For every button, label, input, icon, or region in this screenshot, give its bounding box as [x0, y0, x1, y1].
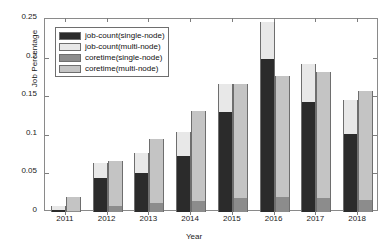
x-axis-tick-label: 2011 [45, 214, 85, 223]
bar-segment-coretime-single-node [150, 203, 163, 211]
x-axis-tick-label: 2016 [254, 214, 294, 223]
bar-job-count [260, 22, 275, 212]
x-axis-tick-mark-top [190, 18, 191, 22]
bar-segment-job-count-single-node [177, 156, 190, 212]
x-axis-tick-mark-top [274, 18, 275, 22]
bar-job-count [176, 132, 191, 212]
chart-figure: Job Percentage 00.050.10.150.20.25 20112… [0, 0, 388, 249]
x-axis-tick-mark-top [107, 18, 108, 22]
y-axis-tick-label: 0.1 [26, 128, 37, 137]
legend-entry: coretime(multi-node) [59, 63, 165, 74]
y-axis-tick-mark [45, 58, 49, 59]
y-axis-tick: 0.15 [0, 95, 44, 96]
bar-segment-job-count-multi-node [344, 100, 357, 134]
bar-segment-coretime-single-node [109, 206, 122, 212]
bar-coretime [275, 76, 290, 212]
x-axis-tick-mark-top [148, 18, 149, 22]
x-axis-tick-label: 2012 [87, 214, 127, 223]
legend-swatch [59, 32, 81, 40]
y-axis-tick-label: 0.25 [21, 12, 37, 21]
bar-segment-coretime-multi-node [109, 161, 122, 206]
bar-segment-job-count-multi-node [177, 132, 190, 157]
bar-segment-job-count-single-node [94, 178, 107, 212]
bar-segment-coretime-multi-node [67, 197, 80, 211]
legend-swatch [59, 43, 81, 51]
y-axis-tick: 0 [0, 211, 44, 212]
bar-segment-coretime-single-node [234, 198, 247, 212]
x-axis-tick-mark-top [357, 18, 358, 22]
bar-segment-job-count-multi-node [94, 163, 107, 178]
legend-swatch [59, 54, 81, 62]
bar-segment-job-count-single-node [219, 112, 232, 212]
bar-segment-job-count-single-node [302, 102, 315, 212]
bar-coretime [66, 197, 81, 212]
x-axis-tick-label: 2015 [212, 214, 252, 223]
y-axis-tick-mark-right [373, 96, 377, 97]
bar-coretime [191, 111, 206, 212]
bar-job-count [343, 100, 358, 212]
x-axis-tick-label: 2014 [170, 214, 210, 223]
legend-swatch [59, 65, 81, 73]
bar-job-count [218, 84, 233, 212]
x-axis-tick-label: 2018 [337, 214, 377, 223]
bar-job-count [51, 206, 66, 212]
bar-job-count [301, 64, 316, 212]
bar-segment-job-count-single-node [135, 173, 148, 212]
y-axis-tick-mark [45, 96, 49, 97]
y-axis-tick-mark-right [373, 58, 377, 59]
bar-segment-job-count-multi-node [261, 22, 274, 59]
x-axis-tick-mark-top [65, 18, 66, 22]
bar-segment-coretime-single-node [192, 201, 205, 212]
bar-segment-coretime-multi-node [317, 72, 330, 198]
y-axis-tick-label: 0.05 [21, 166, 37, 175]
bar-segment-job-count-single-node [261, 59, 274, 212]
bar-segment-coretime-single-node [67, 211, 80, 212]
y-axis-tick: 0.1 [0, 134, 44, 135]
bar-coretime [233, 84, 248, 212]
x-axis-tick-mark-top [315, 18, 316, 22]
bar-segment-coretime-multi-node [276, 76, 289, 196]
bar-segment-job-count-single-node [344, 134, 357, 212]
bar-coretime [149, 139, 164, 212]
bar-segment-coretime-multi-node [150, 139, 163, 203]
y-axis-tick: 0.05 [0, 172, 44, 173]
x-axis-tick-label: 2017 [295, 214, 335, 223]
bar-segment-coretime-single-node [359, 200, 372, 212]
bar-segment-job-count-multi-node [52, 206, 65, 211]
y-axis-tick-mark-right [373, 173, 377, 174]
y-axis-tick-label: 0 [33, 205, 37, 214]
bar-job-count [134, 153, 149, 212]
x-axis-label: Year [0, 232, 388, 241]
y-axis-tick: 0.2 [0, 57, 44, 58]
y-axis-tick-label: 0.15 [21, 89, 37, 98]
bar-segment-coretime-multi-node [234, 84, 247, 198]
bar-job-count [93, 163, 108, 212]
y-axis-tick-label: 0.2 [26, 51, 37, 60]
y-axis-tick-mark [45, 173, 49, 174]
bar-segment-coretime-single-node [276, 197, 289, 212]
bar-coretime [358, 91, 373, 212]
bar-segment-job-count-multi-node [135, 153, 148, 173]
x-axis-tick-mark-top [232, 18, 233, 22]
y-axis-tick-mark [45, 135, 49, 136]
bar-segment-coretime-single-node [317, 198, 330, 212]
legend-label: job-count(single-node) [85, 31, 165, 40]
y-axis-tick-mark-right [373, 135, 377, 136]
bar-coretime [108, 161, 123, 212]
bar-segment-job-count-multi-node [302, 64, 315, 103]
legend-entry: job-count(multi-node) [59, 41, 165, 52]
bar-coretime [316, 72, 331, 212]
bar-segment-coretime-multi-node [192, 111, 205, 201]
bar-segment-job-count-single-node [52, 210, 65, 212]
y-axis-tick: 0.25 [0, 18, 44, 19]
bar-segment-job-count-multi-node [219, 84, 232, 112]
chart-legend: job-count(single-node)job-count(multi-no… [55, 27, 169, 77]
legend-entry: coretime(single-node) [59, 52, 165, 63]
legend-label: job-count(multi-node) [85, 42, 161, 51]
bar-segment-coretime-multi-node [359, 91, 372, 200]
legend-label: coretime(single-node) [85, 53, 162, 62]
legend-label: coretime(multi-node) [85, 64, 158, 73]
x-axis-tick-label: 2013 [128, 214, 168, 223]
legend-entry: job-count(single-node) [59, 30, 165, 41]
